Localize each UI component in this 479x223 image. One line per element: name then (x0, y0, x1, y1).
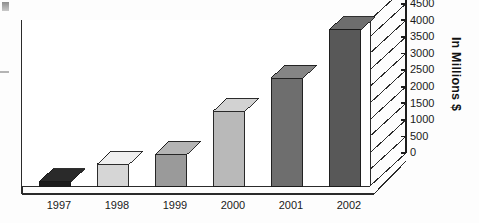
y-tick-label: 3500 (410, 30, 434, 42)
y-tick-label: 500 (410, 130, 428, 142)
y-tick-label: 0 (410, 146, 416, 158)
chart-figure: 0500100015002000250030003500400045005000… (0, 0, 479, 223)
y-tick-label: 3000 (410, 47, 434, 59)
bar-chart-plot: 0500100015002000250030003500400045005000… (0, 0, 479, 223)
x-tick-label-2000: 2000 (221, 199, 245, 211)
y-tick-label: 1500 (410, 97, 434, 109)
x-tick-label-2001: 2001 (279, 199, 303, 211)
x-tick-label-1997: 1997 (47, 199, 71, 211)
y-tick-labels: 0500100015002000250030003500400045005000 (410, 0, 434, 158)
x-tick-label-2002: 2002 (337, 199, 361, 211)
y-tick-label: 2000 (410, 80, 434, 92)
y-axis-title-text: In Millions $ (449, 37, 463, 111)
y-tick-label: 4500 (410, 0, 434, 9)
y-tick-label: 4000 (410, 14, 434, 26)
y-tick-label: 1000 (410, 113, 434, 125)
y-axis-title: In Millions $ (449, 37, 463, 111)
chart-canvas: 0500100015002000250030003500400045005000… (0, 0, 479, 223)
x-tick-label-1998: 1998 (105, 199, 129, 211)
x-tick-labels: 199719981999200020012002 (47, 199, 361, 211)
x-tick-label-1999: 1999 (163, 199, 187, 211)
y-tick-label: 2500 (410, 63, 434, 75)
